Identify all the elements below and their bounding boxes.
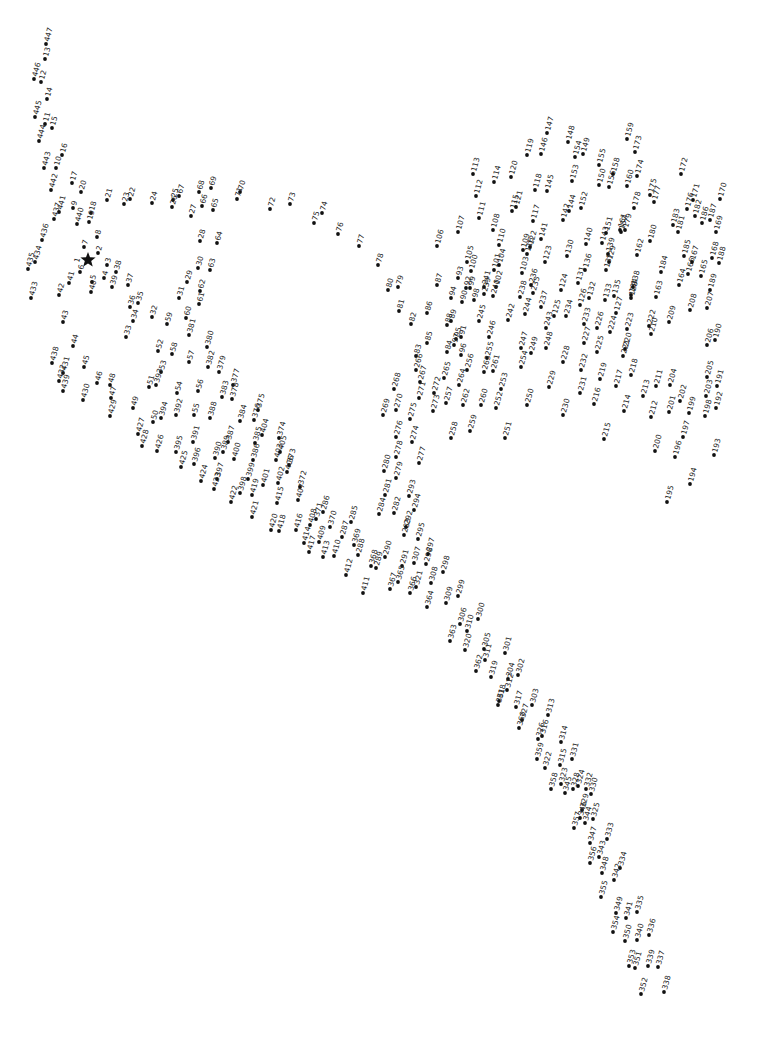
dot-point <box>108 414 112 418</box>
dot-point <box>625 327 629 331</box>
dot-number-label: 24 <box>148 190 159 202</box>
dot-point <box>492 180 496 184</box>
dot-point <box>361 591 365 595</box>
dot-number-label: 112 <box>472 178 484 194</box>
dot-point <box>700 221 704 225</box>
dot-point <box>607 185 611 189</box>
dot-point <box>89 290 93 294</box>
start-label: 1 <box>72 256 82 263</box>
dot-point <box>356 553 360 557</box>
dot-number-label: 272 <box>430 375 442 391</box>
dot-number-label: 438 <box>48 345 60 361</box>
dot-number-label: 282 <box>390 495 402 511</box>
dot-point <box>189 214 193 218</box>
dot-number-label: 410 <box>330 538 342 554</box>
dot-point <box>386 288 390 292</box>
dot-number-label: 362 <box>472 653 484 669</box>
dot-point <box>528 245 532 249</box>
dot-point <box>635 910 639 914</box>
dot-number-label: 442 <box>47 172 59 188</box>
dot-point <box>494 406 498 410</box>
dot-number-label: 163 <box>652 279 664 295</box>
dot-point <box>629 293 633 297</box>
dot-point <box>382 469 386 473</box>
dot-number-label: 117 <box>529 203 541 219</box>
dot-point <box>653 449 657 453</box>
dot-point <box>412 561 416 565</box>
dot-point <box>340 535 344 539</box>
dot-number-label: 8 <box>93 228 103 235</box>
dot-point <box>600 871 604 875</box>
dot-number-label: 250 <box>523 387 535 403</box>
dot-number-label: 205 <box>703 359 715 375</box>
dot-point <box>646 964 650 968</box>
dot-number-label: 246 <box>485 319 497 335</box>
dot-point <box>50 361 54 365</box>
dot-number-label: 198 <box>701 398 713 414</box>
dot-point <box>584 242 588 246</box>
dot-point <box>39 80 43 84</box>
dot-point <box>376 263 380 267</box>
dot-number-label: 65 <box>209 197 220 209</box>
dot-point <box>54 166 58 170</box>
dot-number-label: 274 <box>408 424 420 440</box>
dot-number-label: 338 <box>660 974 672 990</box>
dot-number-label: 43 <box>59 309 70 321</box>
dot-number-label: 271 <box>415 380 427 396</box>
dot-point <box>108 383 112 387</box>
dot-number-label: 231 <box>576 375 588 391</box>
dot-point <box>588 861 592 865</box>
dot-number-label: 326 <box>534 721 546 737</box>
dot-point <box>544 326 548 330</box>
dot-point <box>205 345 209 349</box>
dot-point <box>612 294 616 298</box>
dot-number-label: 113 <box>469 156 481 172</box>
dot-point <box>561 413 565 417</box>
dot-number-label: 114 <box>490 164 502 180</box>
dot-point <box>445 350 449 354</box>
dot-point <box>408 591 412 595</box>
dot-point <box>514 705 518 709</box>
dot-number-label: 320 <box>461 632 473 648</box>
dot-point <box>445 323 449 327</box>
dot-point <box>614 911 618 915</box>
dot-point <box>285 470 289 474</box>
dot-point <box>570 179 574 183</box>
dot-point <box>605 837 609 841</box>
dot-point <box>525 252 529 256</box>
dot-point <box>543 766 547 770</box>
dot-number-label: 232 <box>577 352 589 368</box>
dot-point <box>649 332 653 336</box>
dot-point <box>468 286 472 290</box>
dot-point <box>96 251 100 255</box>
dot-point <box>61 320 65 324</box>
dot-number-label: 335 <box>633 894 645 910</box>
dot-point <box>648 239 652 243</box>
dot-point <box>151 420 155 424</box>
dot-point <box>673 455 677 459</box>
dot-point <box>656 965 660 969</box>
dot-number-label: 199 <box>685 395 697 411</box>
dot-point <box>294 528 298 532</box>
dot-point <box>394 435 398 439</box>
dot-point <box>546 713 550 717</box>
dot-point <box>710 256 714 260</box>
dot-number-label: 219 <box>596 361 608 377</box>
dot-number-label: 281 <box>381 477 393 493</box>
dot-point <box>595 326 599 330</box>
dot-point <box>260 433 264 437</box>
dot-point <box>124 335 128 339</box>
dot-point <box>621 354 625 358</box>
dot-number-label: 87 <box>433 272 444 284</box>
dot-point <box>503 651 507 655</box>
dot-point <box>487 335 491 339</box>
dot-number-label: 204 <box>666 367 678 383</box>
dot-point <box>71 344 75 348</box>
dot-point <box>489 675 493 679</box>
dot-point <box>654 295 658 299</box>
dot-number-label: 173 <box>631 134 643 150</box>
dot-point <box>394 476 398 480</box>
dot-number-label: 207 <box>703 290 715 306</box>
dot-number-label: 331 <box>568 741 580 757</box>
dot-number-label: 300 <box>474 601 486 617</box>
